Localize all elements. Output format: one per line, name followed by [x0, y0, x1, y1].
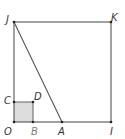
label-O: O — [4, 126, 12, 137]
point-A — [61, 121, 64, 124]
label-C: C — [4, 95, 11, 106]
label-I: I — [110, 126, 113, 137]
label-A: A — [57, 126, 65, 137]
geometry-diagram: J K C D O B A I — [0, 0, 125, 139]
point-C — [13, 101, 16, 104]
label-K: K — [111, 12, 119, 23]
label-D: D — [34, 91, 42, 102]
label-B: B — [31, 126, 38, 137]
point-I — [110, 121, 113, 124]
point-J — [13, 21, 16, 24]
label-J: J — [4, 14, 9, 25]
shaded-square-OBDC — [14, 102, 33, 122]
point-O — [13, 121, 16, 124]
point-B — [32, 121, 35, 124]
